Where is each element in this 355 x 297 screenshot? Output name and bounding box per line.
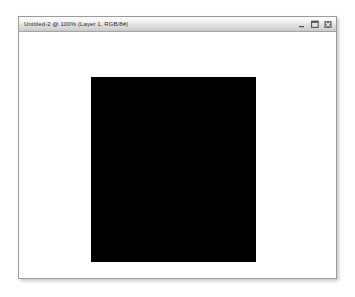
maximize-icon[interactable] <box>311 20 319 29</box>
title-bar[interactable]: Untitled-2 @ 100% (Layer 1, RGB/8#) <box>19 17 336 32</box>
document-window[interactable]: Untitled-2 @ 100% (Layer 1, RGB/8#) <box>18 16 337 279</box>
minimize-icon[interactable] <box>298 20 306 29</box>
image-canvas[interactable] <box>19 32 336 277</box>
filled-rectangle-artwork[interactable] <box>91 77 256 262</box>
document-title: Untitled-2 @ 100% (Layer 1, RGB/8#) <box>24 20 128 28</box>
window-controls <box>298 17 332 31</box>
close-icon[interactable] <box>324 20 332 29</box>
